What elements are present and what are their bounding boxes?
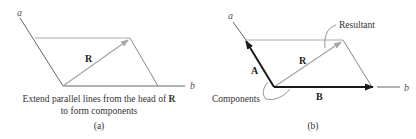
parallel-line-right	[130, 38, 158, 86]
axis-a-line	[233, 22, 246, 40]
caption-line-2: to form components	[61, 106, 138, 116]
axis-a-line	[20, 18, 63, 86]
axis-b-label: b	[404, 82, 409, 93]
resultant-arrow	[274, 42, 341, 87]
parallel-line-right	[343, 40, 372, 87]
resultant-leader	[325, 25, 336, 48]
panel-label-a: (a)	[94, 121, 105, 132]
component-a-arrow	[246, 41, 274, 87]
panel-label-b: (b)	[307, 121, 318, 132]
resultant-label: R	[85, 53, 93, 64]
axis-a-label: a	[17, 7, 22, 18]
components-callout: Components	[212, 94, 260, 104]
axis-a-label: a	[228, 10, 233, 21]
panel-b: a b R A B Resultant Components (b)	[212, 10, 409, 132]
vector-components-figure: a b R Extend parallel lines from the hea…	[0, 0, 416, 139]
resultant-label: R	[299, 55, 307, 66]
component-b-label: B	[316, 91, 323, 102]
components-leader-a	[263, 82, 268, 99]
panel-a: a b R Extend parallel lines from the hea…	[17, 7, 195, 132]
resultant-callout: Resultant	[339, 20, 375, 30]
components-leader-b	[266, 89, 290, 100]
component-a-label: A	[251, 65, 259, 76]
axis-b-label: b	[190, 80, 195, 91]
resultant-arrow	[63, 40, 128, 86]
caption-line-1: Extend parallel lines from the head of R	[23, 94, 176, 104]
